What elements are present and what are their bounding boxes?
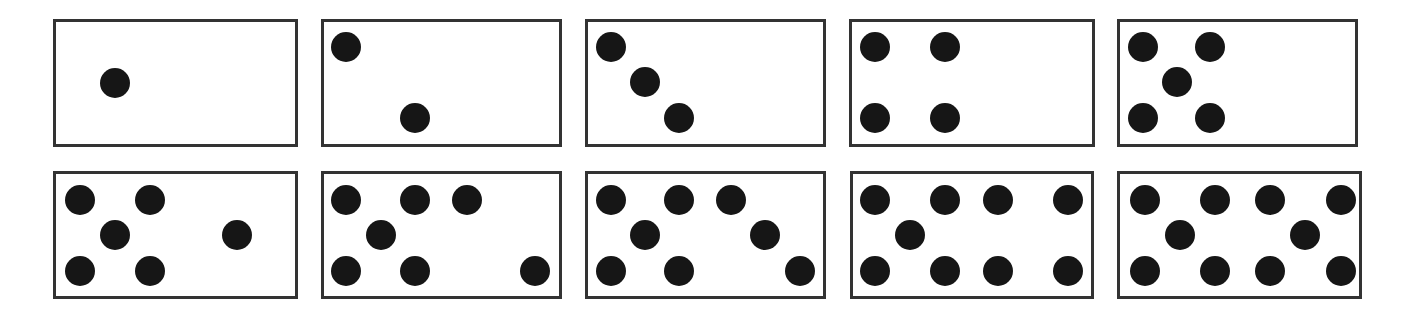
dot-icon	[400, 103, 430, 133]
dot-icon	[860, 32, 890, 62]
dot-icon	[1255, 185, 1285, 215]
dot-icon	[596, 32, 626, 62]
dot-icon	[100, 220, 130, 250]
dot-icon	[930, 32, 960, 62]
dot-icon	[716, 185, 746, 215]
dot-icon	[135, 256, 165, 286]
dot-icon	[930, 103, 960, 133]
dot-icon	[1162, 67, 1192, 97]
dot-icon	[930, 256, 960, 286]
dot-icon	[630, 220, 660, 250]
dot-icon	[222, 220, 252, 250]
dot-icon	[65, 185, 95, 215]
dot-icon	[1128, 32, 1158, 62]
dot-icon	[1053, 256, 1083, 286]
dot-icon	[1290, 220, 1320, 250]
dot-icon	[596, 256, 626, 286]
dot-icon	[1130, 256, 1160, 286]
dot-icon	[785, 256, 815, 286]
dot-icon	[930, 185, 960, 215]
dot-icon	[331, 32, 361, 62]
dot-icon	[1200, 185, 1230, 215]
dot-icon	[1255, 256, 1285, 286]
dot-icon	[750, 220, 780, 250]
dot-icon	[895, 220, 925, 250]
dot-icon	[135, 185, 165, 215]
dot-icon	[860, 185, 890, 215]
dot-icon	[366, 220, 396, 250]
dot-icon	[452, 185, 482, 215]
dot-icon	[630, 67, 660, 97]
dot-icon	[65, 256, 95, 286]
dot-icon	[1195, 32, 1225, 62]
dot-icon	[400, 185, 430, 215]
dot-icon	[1128, 103, 1158, 133]
dot-icon	[1053, 185, 1083, 215]
dot-icon	[664, 103, 694, 133]
dot-icon	[1130, 185, 1160, 215]
dot-icon	[520, 256, 550, 286]
dot-icon	[1195, 103, 1225, 133]
dot-card-1	[53, 19, 298, 147]
dot-icon	[596, 185, 626, 215]
dot-icon	[1200, 256, 1230, 286]
dot-icon	[400, 256, 430, 286]
dot-icon	[664, 185, 694, 215]
dot-icon	[1326, 185, 1356, 215]
dot-icon	[664, 256, 694, 286]
dot-icon	[331, 256, 361, 286]
dot-icon	[983, 185, 1013, 215]
dot-icon	[860, 256, 890, 286]
dot-icon	[100, 68, 130, 98]
dot-icon	[331, 185, 361, 215]
dot-icon	[983, 256, 1013, 286]
dot-icon	[1326, 256, 1356, 286]
dot-icon	[860, 103, 890, 133]
dot-icon	[1165, 220, 1195, 250]
